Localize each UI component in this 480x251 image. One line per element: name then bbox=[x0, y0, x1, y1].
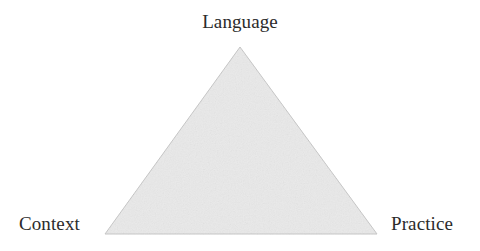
vertex-label-practice: Practice bbox=[391, 214, 453, 233]
vertex-label-context: Context bbox=[19, 214, 80, 233]
triangle-diagram: Language Context Practice bbox=[0, 0, 480, 251]
vertex-label-language: Language bbox=[0, 12, 480, 31]
triangle-shape bbox=[105, 47, 377, 234]
